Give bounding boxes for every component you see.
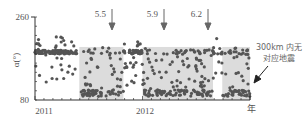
data-point [38,74,41,77]
data-point [48,50,51,53]
data-point [113,70,116,73]
data-point [82,94,85,97]
data-point [119,91,122,94]
data-point [171,94,174,97]
data-point [136,49,139,52]
data-point [63,43,66,46]
data-point [213,52,216,55]
data-point [192,48,195,51]
data-point [141,63,144,66]
data-point [180,49,183,52]
data-point [123,42,126,45]
data-point [116,85,119,88]
data-point [96,89,99,92]
data-point [162,52,165,55]
data-point [109,52,112,55]
data-point [218,47,221,50]
data-point [203,77,206,80]
data-point [237,90,240,93]
data-point [188,77,191,80]
data-point [160,58,163,61]
earthquake-marker-3: 6.2 [191,9,211,30]
data-point [196,70,199,73]
data-point [53,49,56,52]
y-max-label: 260 [16,12,30,22]
data-point [232,56,235,59]
data-point [136,40,139,43]
data-point [154,52,157,55]
data-point [100,52,103,55]
down-arrow-icon [109,9,115,30]
data-point [224,72,227,75]
data-point [114,93,117,96]
data-point [146,52,149,55]
data-point [189,95,192,98]
data-point [148,61,151,64]
data-point [150,65,153,68]
data-point [243,94,246,97]
data-point [68,65,71,68]
data-point [199,84,202,87]
data-point [194,64,197,67]
data-point [212,77,215,80]
data-point [146,77,149,80]
x-label-2012: 2012 [136,106,154,116]
data-point [125,66,128,69]
data-point [158,70,161,73]
data-point [106,50,109,53]
data-point [247,67,250,70]
data-point [172,51,175,54]
data-point [220,61,223,64]
data-point [183,93,186,96]
data-point [215,37,218,40]
data-point [112,88,115,91]
data-point [235,72,238,75]
data-point [51,77,54,80]
data-point [119,85,122,88]
data-point [216,52,219,55]
data-point [71,73,74,76]
data-point [169,90,172,93]
data-point [134,61,137,64]
data-point [161,90,164,93]
data-point [60,57,63,60]
data-point [55,56,58,59]
magnitude-label: 5.5 [95,9,107,19]
data-point [182,63,185,66]
data-point [197,93,200,96]
data-point [72,44,75,47]
data-point [220,71,223,74]
data-point [210,54,213,57]
data-point [45,80,48,83]
data-point [59,36,62,39]
data-point [124,62,127,65]
data-point [37,38,40,41]
data-point [175,49,178,52]
data-point [240,94,243,97]
data-point [144,89,147,92]
data-point [116,77,119,80]
data-point [186,57,189,60]
data-point [70,40,73,43]
data-point [165,71,168,74]
data-point [222,94,225,97]
data-point [176,84,179,87]
scatter-chart: 260 80 α(°) 2011 2012 年 5.5 5.9 6.2 300k… [0,0,304,127]
data-point [142,71,145,74]
data-point [242,89,245,92]
data-point [100,86,103,89]
data-point [59,50,62,53]
data-point [148,93,151,96]
data-point [241,48,244,51]
data-point [179,90,182,93]
data-point [160,76,163,79]
annotation-line-2: 对应地震 [263,53,295,63]
data-point [232,50,235,53]
data-point [74,68,77,71]
x-label-2011: 2011 [35,106,53,116]
data-point [143,82,146,85]
data-point [179,93,182,96]
data-point [229,49,232,52]
data-point [184,86,187,89]
data-point [142,79,145,82]
